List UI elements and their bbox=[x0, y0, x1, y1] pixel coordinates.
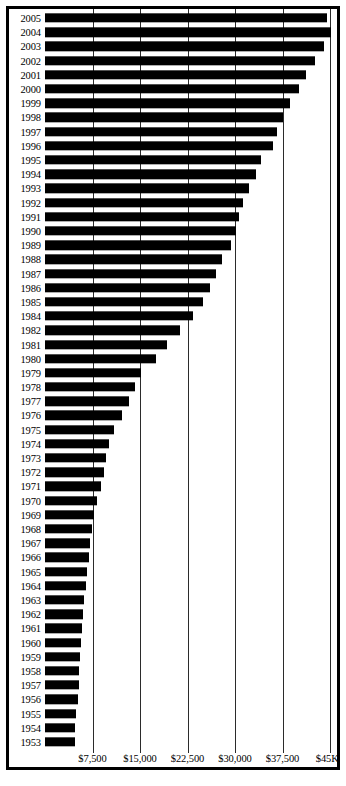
bar bbox=[45, 212, 239, 221]
bar-row: 1999 bbox=[9, 96, 337, 110]
bar-row: 1972 bbox=[9, 465, 337, 479]
bar-row: 1966 bbox=[9, 550, 337, 564]
category-label: 1969 bbox=[9, 509, 41, 520]
bar-row: 1959 bbox=[9, 650, 337, 664]
bar-row: 1986 bbox=[9, 281, 337, 295]
bar-row: 1954 bbox=[9, 721, 337, 735]
bar-row: 1980 bbox=[9, 352, 337, 366]
category-label: 1973 bbox=[9, 453, 41, 464]
bar-row: 1977 bbox=[9, 394, 337, 408]
bar bbox=[45, 666, 79, 675]
bar bbox=[45, 737, 75, 746]
bar-row: 1985 bbox=[9, 295, 337, 309]
x-axis-tick-labels: $7,500$15,000$22,500$30,000$37,500$45K bbox=[9, 748, 337, 766]
category-label: 1992 bbox=[9, 197, 41, 208]
bar bbox=[45, 425, 114, 434]
category-label: 1977 bbox=[9, 396, 41, 407]
bar bbox=[45, 411, 122, 420]
bar bbox=[45, 581, 86, 590]
category-label: 1974 bbox=[9, 438, 41, 449]
category-label: 1976 bbox=[9, 410, 41, 421]
bar-row: 1998 bbox=[9, 110, 337, 124]
bar-row: 2005 bbox=[9, 11, 337, 25]
bar-row: 1992 bbox=[9, 196, 337, 210]
bar-row: 2001 bbox=[9, 68, 337, 82]
category-label: 1957 bbox=[9, 680, 41, 691]
category-label: 1965 bbox=[9, 566, 41, 577]
bar-row: 1984 bbox=[9, 309, 337, 323]
bar bbox=[45, 453, 106, 462]
bar bbox=[45, 397, 129, 406]
bar-row: 1962 bbox=[9, 607, 337, 621]
category-label: 1966 bbox=[9, 552, 41, 563]
bar bbox=[45, 28, 331, 37]
category-label: 1968 bbox=[9, 524, 41, 535]
bar bbox=[45, 255, 222, 264]
bar-row: 1979 bbox=[9, 366, 337, 380]
bar bbox=[45, 439, 109, 448]
bar bbox=[45, 113, 283, 122]
category-label: 1982 bbox=[9, 325, 41, 336]
category-label: 1963 bbox=[9, 594, 41, 605]
category-label: 1990 bbox=[9, 225, 41, 236]
bar-row: 1963 bbox=[9, 593, 337, 607]
bar-row: 2003 bbox=[9, 39, 337, 53]
x-tick-label: $30,000 bbox=[218, 753, 251, 765]
bar-row: 1990 bbox=[9, 224, 337, 238]
bar-row: 2000 bbox=[9, 82, 337, 96]
bar bbox=[45, 283, 210, 292]
bar bbox=[45, 354, 156, 363]
category-label: 1953 bbox=[9, 736, 41, 747]
category-label: 2003 bbox=[9, 41, 41, 52]
bar-row: 1976 bbox=[9, 408, 337, 422]
category-label: 1972 bbox=[9, 467, 41, 478]
category-label: 1980 bbox=[9, 353, 41, 364]
category-label: 1984 bbox=[9, 311, 41, 322]
bar bbox=[45, 311, 193, 320]
bar bbox=[45, 141, 273, 150]
chart-frame: 2005200420032002200120001999199819971996… bbox=[6, 6, 340, 770]
bar bbox=[45, 155, 261, 164]
category-label: 1970 bbox=[9, 495, 41, 506]
category-label: 1958 bbox=[9, 665, 41, 676]
bar bbox=[45, 184, 249, 193]
bar-row: 1970 bbox=[9, 494, 337, 508]
bar bbox=[45, 326, 180, 335]
bar bbox=[45, 624, 82, 633]
bar bbox=[45, 510, 94, 519]
bar bbox=[45, 84, 299, 93]
bar-row: 1988 bbox=[9, 252, 337, 266]
bar bbox=[45, 567, 87, 576]
category-label: 1967 bbox=[9, 538, 41, 549]
bar bbox=[45, 468, 104, 477]
bar bbox=[45, 709, 76, 718]
category-label: 1997 bbox=[9, 126, 41, 137]
bar-row: 2004 bbox=[9, 25, 337, 39]
bar bbox=[45, 638, 81, 647]
category-label: 1991 bbox=[9, 211, 41, 222]
plot-area: 2005200420032002200120001999199819971996… bbox=[9, 9, 337, 767]
bar bbox=[45, 524, 92, 533]
bar bbox=[45, 340, 167, 349]
bar-row: 1978 bbox=[9, 380, 337, 394]
bar-row: 1996 bbox=[9, 139, 337, 153]
bar-row: 1975 bbox=[9, 423, 337, 437]
bar bbox=[45, 382, 135, 391]
category-label: 1998 bbox=[9, 112, 41, 123]
bar-row: 1991 bbox=[9, 210, 337, 224]
category-label: 1971 bbox=[9, 481, 41, 492]
category-label: 1960 bbox=[9, 637, 41, 648]
bar bbox=[45, 226, 236, 235]
x-tick-label: $37,500 bbox=[266, 753, 299, 765]
category-label: 1959 bbox=[9, 651, 41, 662]
bar bbox=[45, 70, 306, 79]
category-label: 1964 bbox=[9, 580, 41, 591]
bar bbox=[45, 595, 84, 604]
category-label: 1996 bbox=[9, 140, 41, 151]
category-label: 1955 bbox=[9, 708, 41, 719]
category-label: 1981 bbox=[9, 339, 41, 350]
chart-root: 2005200420032002200120001999199819971996… bbox=[0, 0, 346, 786]
bar-row: 1956 bbox=[9, 692, 337, 706]
bar-row: 1974 bbox=[9, 437, 337, 451]
category-label: 2005 bbox=[9, 13, 41, 24]
